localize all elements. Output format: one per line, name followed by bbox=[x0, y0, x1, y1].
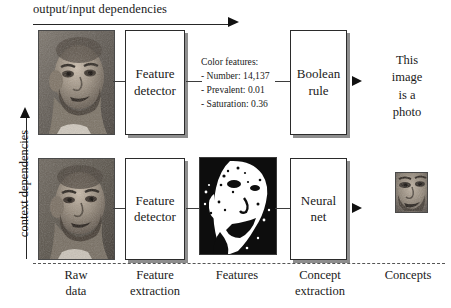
boolean-rule-label: Boolean rule bbox=[297, 66, 340, 98]
binary-face-silhouette-icon bbox=[200, 158, 276, 254]
arrowhead-boolean-to-output-icon bbox=[352, 76, 362, 86]
diagram-canvas: output/input dependencies context depend… bbox=[0, 0, 451, 308]
feature-detector-box-bottom[interactable]: Feature detector bbox=[125, 158, 185, 260]
feature-detector-bottom-label: Feature detector bbox=[134, 193, 176, 225]
connector-raw-to-feature-bottom bbox=[113, 208, 125, 209]
arrowhead-neuralnet-to-concept-icon bbox=[352, 203, 362, 213]
boolean-rule-box[interactable]: Boolean rule bbox=[290, 30, 347, 135]
feature-detector-box-top[interactable]: Feature detector bbox=[125, 30, 185, 135]
stage-label-raw-data: Raw data bbox=[38, 268, 114, 299]
stage-divider-line bbox=[33, 263, 445, 264]
concept-thumbnail bbox=[395, 172, 428, 213]
output-concept-text: This image is a photo bbox=[372, 52, 442, 121]
color-features-line-1: - Prevalent: 0.01 bbox=[201, 83, 269, 97]
stage-label-feature-extraction: Feature extraction bbox=[117, 268, 193, 299]
face-crop-thumbnail-icon bbox=[396, 173, 427, 212]
neural-net-box[interactable]: Neural net bbox=[290, 158, 347, 260]
connector-feature-to-features-top bbox=[186, 81, 202, 82]
top-axis-arrowhead-icon bbox=[228, 17, 239, 27]
color-features-line-0: - Number: 14,137 bbox=[201, 69, 269, 83]
raw-photo-top bbox=[38, 30, 115, 135]
stage-label-features: Features bbox=[198, 268, 276, 284]
color-features-line-2: - Saturation: 0.36 bbox=[201, 97, 269, 111]
connector-feature-to-features-bottom bbox=[186, 208, 200, 209]
portrait-photo-icon bbox=[39, 159, 114, 259]
top-axis-line bbox=[33, 24, 231, 25]
feature-detector-top-label: Feature detector bbox=[134, 66, 176, 98]
top-axis-label: output/input dependencies bbox=[33, 2, 167, 17]
neural-net-label: Neural net bbox=[301, 193, 336, 225]
raw-photo-bottom bbox=[38, 158, 115, 260]
connector-raw-to-feature-top bbox=[113, 81, 125, 82]
connector-features-to-boolean bbox=[275, 81, 290, 82]
portrait-photo-icon bbox=[39, 31, 114, 134]
features-binary-image bbox=[199, 157, 277, 255]
left-axis-label: context dependencies bbox=[17, 110, 32, 258]
color-features-heading: Color features: bbox=[201, 55, 269, 69]
stage-label-concept-extraction: Concept extraction bbox=[282, 268, 358, 299]
stage-label-concepts: Concepts bbox=[372, 268, 444, 284]
color-features-text: Color features: - Number: 14,137 - Preva… bbox=[201, 55, 269, 111]
connector-features-to-neural-net bbox=[275, 208, 290, 209]
